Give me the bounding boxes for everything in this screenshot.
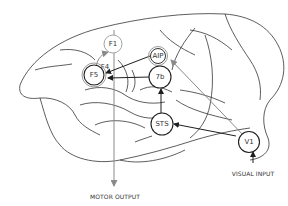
visual-input-label: VISUAL INPUT <box>232 170 275 177</box>
v1-to-aip-arrow <box>171 60 246 138</box>
node-7b-label: 7b <box>156 73 165 81</box>
motor-output-label: MOTOR OUTPUT <box>90 193 140 200</box>
node-f5-label: F5 <box>90 71 98 79</box>
node-f1: F1 <box>104 35 122 53</box>
node-v1-label: V1 <box>244 138 253 146</box>
node-f5: F5 <box>82 63 106 87</box>
node-v1: V1 <box>239 132 260 153</box>
node-sts: STS <box>151 113 173 135</box>
node-aip-label: AIP <box>152 52 163 60</box>
node-f1-label: F1 <box>109 40 117 48</box>
node-sts-label: STS <box>155 120 169 128</box>
brain-diagram: F1 F4 F5 AIP 7b STS V1 MOTOR OUTPUT VISU… <box>0 0 288 206</box>
node-7b: 7b <box>149 66 171 88</box>
v1-to-sts-arrow <box>174 124 236 136</box>
aip-to-f5-arrow <box>106 56 150 73</box>
node-aip: AIP <box>149 47 168 66</box>
